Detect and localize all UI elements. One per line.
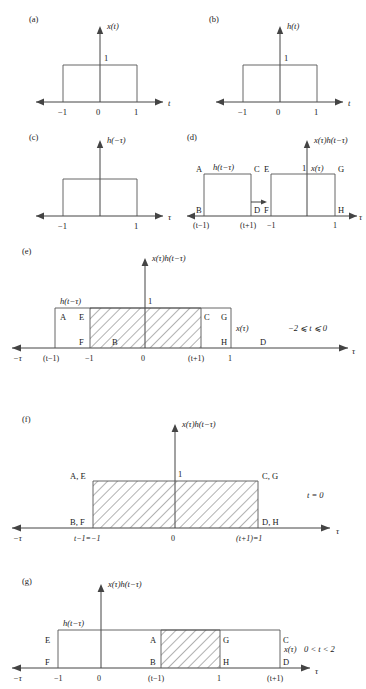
corner-label-B: B bbox=[196, 205, 202, 215]
tick-label-tminus1: (t−1) bbox=[43, 354, 59, 363]
x-axis-arrow-right bbox=[155, 99, 163, 106]
corner-label-B: B bbox=[150, 657, 156, 667]
amplitude-label: 1 bbox=[302, 163, 306, 173]
corner-label-H: H bbox=[223, 657, 229, 667]
overlap-hatch-region bbox=[161, 630, 220, 668]
panel-c-tag: (c) bbox=[29, 132, 38, 142]
corner-label-D: D bbox=[260, 337, 266, 347]
corner-label-E: E bbox=[45, 635, 50, 645]
panel-g-graph: x(τ)h(t−τ) τ −τ h(t−τ) x(τ) E A G C F B … bbox=[0, 568, 366, 689]
corner-label-C: C bbox=[204, 312, 210, 322]
x-axis-arrow-left bbox=[12, 344, 21, 351]
x-axis-arrow-right bbox=[321, 524, 330, 531]
tick-label-zero: 0 bbox=[171, 534, 175, 543]
corner-label-C: C bbox=[254, 164, 260, 174]
x-axis-arrow-right bbox=[349, 213, 357, 220]
x-axis-label: t bbox=[168, 98, 171, 108]
curve-label-h: h(t−τ) bbox=[213, 162, 234, 172]
tick-label-neg1: −1 bbox=[85, 354, 94, 363]
corner-label-H: H bbox=[221, 337, 227, 347]
panel-c-graph: h(−τ) τ −1 1 bbox=[0, 118, 183, 230]
x-axis-label: t bbox=[348, 98, 351, 108]
tick-label-tminus1: (t−1) bbox=[193, 221, 209, 230]
panel-c: (c) h(−τ) τ −1 1 bbox=[0, 118, 183, 230]
tick-label-tplus1: (t+1) bbox=[240, 221, 256, 230]
corner-label-G: G bbox=[338, 164, 344, 174]
corner-label-G: G bbox=[221, 312, 227, 322]
panel-d: (d) x(τ)h(t−τ) τ h(t−τ) x(τ) 1 A B C D E… bbox=[183, 118, 366, 230]
y-axis-arrow bbox=[142, 258, 149, 266]
corner-label-D: D bbox=[283, 657, 289, 667]
panel-f-graph: x(τ)h(t−τ) τ −τ 1 A, E C, G B, F D, H t−… bbox=[0, 400, 366, 545]
curve-label-h: h(t−τ) bbox=[63, 618, 84, 628]
overlap-hatch-region bbox=[93, 481, 258, 528]
x-axis-label-left: −τ bbox=[13, 673, 23, 683]
tick-label-neg1: −1 bbox=[238, 107, 247, 117]
tick-label-pos1: 1 bbox=[314, 107, 318, 117]
y-axis-label: x(τ)h(t−τ) bbox=[151, 253, 186, 263]
corner-label-BF: B, F bbox=[70, 517, 85, 527]
x-axis-label-left: −τ bbox=[13, 533, 23, 543]
x-axis-arrow-left bbox=[187, 213, 195, 220]
corner-label-F: F bbox=[264, 205, 269, 215]
tick-label-neg1: −1 bbox=[267, 221, 276, 230]
y-axis-arrow bbox=[277, 26, 283, 34]
x-axis-label: τ bbox=[352, 346, 356, 356]
panel-e-tag: (e) bbox=[22, 246, 31, 256]
tick-label-pos1: 1 bbox=[217, 674, 221, 683]
tick-label-pos1: 1 bbox=[333, 221, 337, 230]
y-axis-label: h(−τ) bbox=[107, 135, 126, 145]
amplitude-label: 1 bbox=[284, 53, 288, 63]
panel-f-tag: (f) bbox=[22, 414, 31, 424]
tick-label-tminus1: (t−1) bbox=[148, 674, 164, 683]
x-axis-label-left: −τ bbox=[13, 353, 23, 363]
y-axis-label: h(t) bbox=[287, 21, 299, 31]
x-axis-arrow-left bbox=[12, 664, 21, 671]
x-axis-label: τ bbox=[359, 212, 363, 222]
panel-b: (b) h(t) t 1 −1 0 1 bbox=[183, 0, 366, 118]
corner-label-A: A bbox=[196, 164, 203, 174]
y-axis-arrow bbox=[97, 140, 103, 148]
corner-label-F: F bbox=[45, 657, 50, 667]
panel-a: (a) x(t) t 1 −1 0 1 bbox=[0, 0, 183, 118]
curve-label-h: h(t−τ) bbox=[60, 296, 81, 306]
panel-f: (f) x(τ)h(t−τ) τ −τ 1 A, E C, G B, F D, … bbox=[0, 400, 366, 545]
panel-d-graph: x(τ)h(t−τ) τ h(t−τ) x(τ) 1 A B C D E F G… bbox=[183, 118, 366, 230]
condition-label: t = 0 bbox=[307, 490, 324, 500]
corner-label-A: A bbox=[60, 312, 67, 322]
corner-label-H: H bbox=[338, 205, 344, 215]
x-axis-arrow-right bbox=[335, 99, 343, 106]
corner-label-E: E bbox=[79, 312, 84, 322]
condition-label: −2 ⩽ t ⩽ 0 bbox=[288, 323, 328, 333]
tick-label-tplus1: (t+1) bbox=[188, 354, 204, 363]
x-axis-label: τ bbox=[168, 212, 172, 222]
y-axis-label: x(τ)h(t−τ) bbox=[181, 419, 216, 429]
panel-a-tag: (a) bbox=[29, 14, 38, 24]
amplitude-label: 1 bbox=[148, 296, 152, 306]
curve-label-x: x(τ) bbox=[310, 163, 324, 173]
curve-label-x: x(τ) bbox=[235, 323, 249, 333]
amplitude-label: 1 bbox=[178, 469, 182, 479]
tick-label-zero: 0 bbox=[276, 107, 280, 117]
x-axis-arrow-right bbox=[155, 213, 163, 220]
panel-d-tag: (d) bbox=[187, 132, 197, 142]
corner-label-A: A bbox=[150, 635, 157, 645]
tick-label-neg1: −1 bbox=[58, 107, 67, 117]
panel-g: (g) x(τ)h(t−τ) τ −τ h(t−τ) x(τ) E A G C … bbox=[0, 568, 366, 689]
shift-arrow-head bbox=[261, 199, 267, 204]
tick-label-left: t−1=−1 bbox=[74, 534, 100, 543]
y-axis-label: x(τ)h(t−τ) bbox=[107, 579, 142, 589]
x-axis-label: τ bbox=[336, 526, 340, 536]
overlap-hatch-region bbox=[90, 308, 201, 348]
panel-b-tag: (b) bbox=[209, 14, 219, 24]
y-axis-arrow bbox=[172, 424, 179, 432]
tick-label-pos1: 1 bbox=[228, 354, 232, 363]
y-axis-arrow bbox=[97, 26, 103, 34]
curve-label-x: x(τ) bbox=[283, 644, 297, 654]
x-axis-arrow-left bbox=[216, 99, 224, 106]
tick-label-neg1: −1 bbox=[54, 674, 63, 683]
tick-label-pos1: 1 bbox=[134, 107, 138, 117]
y-axis-label: x(τ)h(t−τ) bbox=[313, 135, 348, 145]
corner-label-CG: C, G bbox=[262, 471, 278, 481]
tick-label-zero: 0 bbox=[97, 674, 101, 683]
